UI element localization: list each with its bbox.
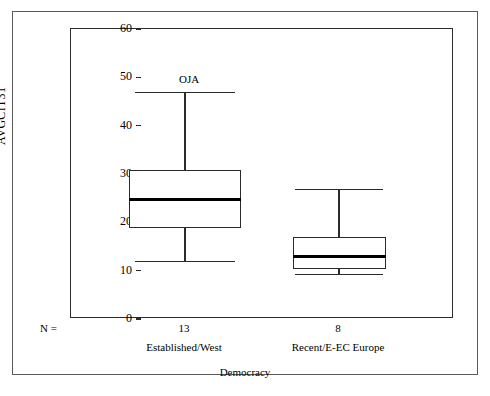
category-label-1: Established/West [104,341,264,353]
y-axis-title: AVGCIT31 [0,87,9,145]
plot-area: 0102030405060 OJA [70,28,453,318]
upper-whisker-cap [295,189,383,190]
lower-whisker-cap [295,274,383,275]
boxplot-figure: 0102030405060 OJA AVGCIT31 N = 13Establi… [0,0,490,396]
iqr-box [293,237,386,269]
upper-whisker-line [338,189,339,237]
x-axis-title: Democracy [0,366,490,378]
boxplot-2 [71,29,454,317]
n-equals-label: N = [40,322,57,334]
median-line [293,255,386,258]
category-label-2: Recent/E-EC Europe [258,341,418,353]
category-count-2: 8 [278,322,398,334]
category-count-1: 13 [124,322,244,334]
y-tick-mark [136,318,141,319]
